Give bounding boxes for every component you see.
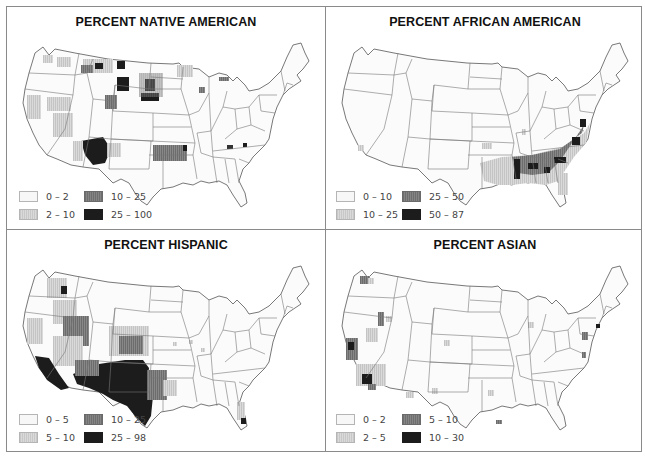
panel-native-american: PERCENT NATIVE AMERICAN — [7, 7, 325, 229]
legend-item: 0 – 10 — [336, 189, 392, 203]
legend-swatch-lightest — [19, 191, 38, 202]
legend-item: 25 – 98 — [84, 430, 146, 444]
legend-item: 2 – 10 — [19, 207, 75, 221]
legend-swatch-light — [336, 432, 355, 443]
panel-african-american: PERCENT AFRICAN AMERICAN 0 – 10 10 – 25 … — [326, 7, 644, 229]
legend-item: 0 – 2 — [336, 412, 386, 426]
legend-label: 5 – 10 — [429, 414, 458, 425]
legend-item: 10 – 25 — [84, 412, 146, 426]
legend-swatch-lightest — [19, 414, 38, 425]
legend-native-american: 0 – 2 2 – 10 10 – 25 25 – 100 — [13, 187, 213, 223]
legend-label: 10 – 25 — [363, 209, 398, 220]
legend-item: 0 – 2 — [19, 189, 69, 203]
legend-item: 50 – 87 — [402, 207, 464, 221]
us-map-asian — [332, 256, 638, 432]
legend-swatch-light — [19, 432, 38, 443]
us-map-native-american — [13, 33, 319, 209]
legend-label: 10 – 25 — [111, 414, 146, 425]
legend-label: 0 – 10 — [363, 191, 392, 202]
legend-african-american: 0 – 10 10 – 25 25 – 50 50 – 87 — [332, 187, 532, 223]
legend-label: 50 – 87 — [429, 209, 464, 220]
panel-title: PERCENT ASIAN — [326, 238, 644, 252]
legend-item: 0 – 5 — [19, 412, 69, 426]
legend-item: 10 – 25 — [84, 189, 146, 203]
legend-label: 25 – 100 — [111, 209, 152, 220]
panel-title: PERCENT AFRICAN AMERICAN — [326, 15, 644, 29]
legend-swatch-dark — [84, 209, 103, 220]
us-map-african-american — [332, 33, 638, 209]
legend-label: 2 – 5 — [363, 432, 386, 443]
legend-swatch-dark — [84, 432, 103, 443]
legend-label: 2 – 10 — [46, 209, 75, 220]
panel-hispanic: PERCENT HISPANIC 0 – 5 5 – 10 10 — [7, 230, 325, 452]
legend-swatch-light — [336, 209, 355, 220]
legend-label: 10 – 25 — [111, 191, 146, 202]
legend-asian: 0 – 2 2 – 5 5 – 10 10 – 30 — [332, 410, 532, 446]
panel-title: PERCENT HISPANIC — [7, 238, 325, 252]
legend-swatch-lightest — [336, 191, 355, 202]
legend-swatch-dark — [402, 209, 421, 220]
legend-label: 5 – 10 — [46, 432, 75, 443]
legend-item: 10 – 30 — [402, 430, 464, 444]
legend-item: 5 – 10 — [402, 412, 458, 426]
legend-item: 25 – 100 — [84, 207, 152, 221]
legend-item: 25 – 50 — [402, 189, 464, 203]
legend-item: 10 – 25 — [336, 207, 398, 221]
legend-label: 0 – 5 — [46, 414, 69, 425]
legend-swatch-light — [19, 209, 38, 220]
legend-swatch-medium — [84, 414, 103, 425]
legend-swatch-medium — [84, 191, 103, 202]
us-map-hispanic — [13, 256, 319, 432]
legend-swatch-medium — [402, 414, 421, 425]
legend-label: 0 – 2 — [46, 191, 69, 202]
legend-item: 2 – 5 — [336, 430, 386, 444]
panel-title: PERCENT NATIVE AMERICAN — [7, 15, 325, 29]
legend-swatch-medium — [402, 191, 421, 202]
legend-item: 5 – 10 — [19, 430, 75, 444]
legend-label: 0 – 2 — [363, 414, 386, 425]
legend-hispanic: 0 – 5 5 – 10 10 – 25 25 – 98 — [13, 410, 213, 446]
legend-swatch-dark — [402, 432, 421, 443]
legend-label: 25 – 50 — [429, 191, 464, 202]
legend-label: 25 – 98 — [111, 432, 146, 443]
panel-asian: PERCENT ASIAN 0 – 2 2 – 5 — [326, 230, 644, 452]
legend-swatch-lightest — [336, 414, 355, 425]
legend-label: 10 – 30 — [429, 432, 464, 443]
